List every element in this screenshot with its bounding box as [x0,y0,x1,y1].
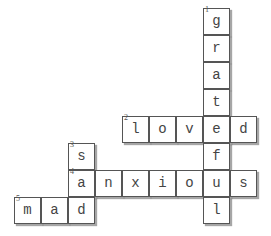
crossword-cell[interactable]: u [203,170,230,197]
crossword-cell[interactable]: 2l [122,116,149,143]
crossword-cell[interactable]: x [122,170,149,197]
crossword-cell[interactable]: n [95,170,122,197]
crossword-cell[interactable]: s [230,170,257,197]
crossword-cell[interactable]: o [149,116,176,143]
crossword-cell[interactable]: r [203,35,230,62]
crossword-cell[interactable]: a [203,62,230,89]
crossword-cell[interactable]: f [203,143,230,170]
crossword-cell[interactable]: i [149,170,176,197]
clue-number: 2 [124,110,128,126]
cell-letter: d [239,117,247,142]
cell-letter: i [158,171,166,196]
crossword-cell[interactable]: 4a [68,170,95,197]
cell-letter: f [212,144,220,169]
cell-letter: n [104,171,112,196]
clue-number: 3 [70,137,74,153]
cell-letter: s [239,171,247,196]
cell-letter: l [131,117,139,142]
cell-letter: x [131,171,139,196]
cell-letter: v [185,117,193,142]
clue-number: 5 [16,191,20,207]
crossword-grid: 1grat2loved3sf4anxious5madl [0,0,271,236]
cell-letter: u [212,171,220,196]
crossword-cell[interactable]: a [41,197,68,224]
clue-number: 1 [205,2,209,18]
cell-letter: a [50,198,58,223]
cell-letter: o [185,171,193,196]
cell-letter: o [158,117,166,142]
cell-letter: a [77,171,85,196]
crossword-cell[interactable]: v [176,116,203,143]
crossword-cell[interactable]: d [230,116,257,143]
cell-letter: d [77,198,85,223]
cell-letter: e [212,117,220,142]
crossword-cell[interactable]: e [203,116,230,143]
cell-letter: a [212,63,220,88]
cell-letter: r [212,36,220,61]
clue-number: 4 [70,164,74,180]
crossword-cell[interactable]: t [203,89,230,116]
cell-letter: g [212,9,220,34]
crossword-cell[interactable]: o [176,170,203,197]
crossword-cell[interactable]: 5m [14,197,41,224]
cell-letter: l [212,198,220,223]
cell-letter: s [77,144,85,169]
cell-letter: t [212,90,220,115]
crossword-cell[interactable]: l [203,197,230,224]
crossword-cell[interactable]: 1g [203,8,230,35]
cell-letter: m [23,198,31,223]
crossword-cell[interactable]: d [68,197,95,224]
